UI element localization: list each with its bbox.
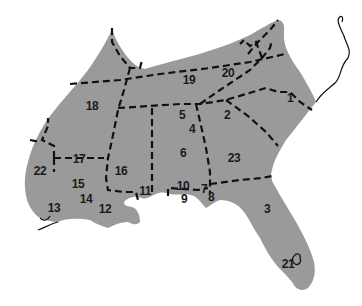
region-label-5: 5 [179,108,186,122]
region-label-12: 12 [99,202,112,216]
region-label-23: 23 [228,151,241,165]
region-label-17: 17 [73,152,86,166]
region-label-14: 14 [80,192,93,206]
region-label-20: 20 [222,66,235,80]
region-label-19: 19 [183,73,196,87]
coastline-north [316,16,349,102]
region-label-11: 11 [139,184,152,198]
region-label-16: 16 [115,164,128,178]
region-label-18: 18 [86,99,99,113]
land-mass [25,20,316,290]
region-label-6: 6 [180,146,187,160]
region-label-22: 22 [34,164,47,178]
southeast-region-map: 1 2 3 4 5 6 7 8 9 10 11 12 13 14 15 16 1… [0,0,362,306]
region-label-13: 13 [48,201,61,215]
region-label-15: 15 [72,177,85,191]
region-label-7: 7 [201,182,208,196]
region-label-2: 2 [224,108,231,122]
region-label-9: 9 [181,192,188,206]
region-label-1: 1 [287,91,294,105]
region-label-21: 21 [282,257,295,271]
region-label-3: 3 [264,202,271,216]
region-label-10: 10 [177,179,190,193]
region-label-8: 8 [208,190,215,204]
region-label-4: 4 [189,122,196,136]
